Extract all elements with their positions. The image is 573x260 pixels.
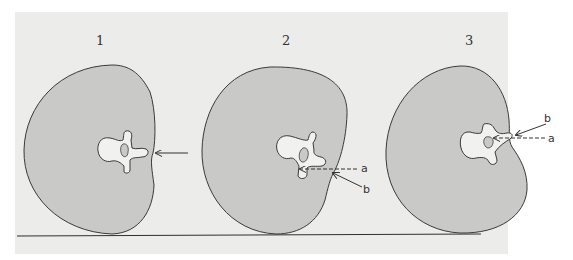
panel-2-number: 2	[282, 33, 290, 48]
spinal-canal-3	[484, 137, 493, 148]
label-b-3: b	[544, 112, 551, 125]
arrow-b-2	[333, 173, 362, 187]
panel-1-number: 1	[96, 33, 104, 48]
arrow-b-3	[516, 124, 546, 135]
spinal-canal-2	[299, 148, 308, 162]
label-b-2: b	[363, 183, 370, 196]
torso-cross-section-3	[386, 66, 527, 233]
cross-section-diagram: 1 2 a b 3 a b	[0, 0, 573, 260]
ground-line	[17, 234, 481, 236]
panel-1: 1	[24, 33, 188, 234]
panel-2: 2 a b	[202, 33, 370, 234]
panel-3: 3 a b	[386, 33, 555, 233]
panel-3-number: 3	[465, 33, 473, 48]
torso-cross-section-2	[202, 67, 347, 234]
label-a-3: a	[548, 132, 555, 145]
label-a-2: a	[361, 162, 368, 175]
spinal-canal-1	[121, 144, 129, 157]
